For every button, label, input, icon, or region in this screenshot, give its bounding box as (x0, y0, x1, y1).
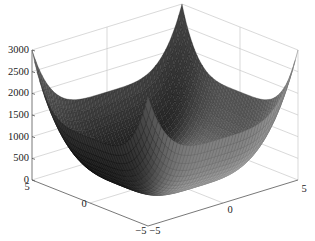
z-tick-500: 500 (13, 152, 29, 163)
surface-plot: 0 500 1000 1500 2000 2500 3000 5 0 −5 −5… (0, 0, 315, 241)
surface-mesh (32, 4, 298, 195)
z-tick-1000: 1000 (8, 131, 29, 142)
x-tick-neg5: −5 (149, 225, 160, 236)
z-tick-2000: 2000 (8, 87, 29, 98)
x-tick-0: 0 (227, 204, 232, 215)
z-tick-2500: 2500 (8, 66, 29, 77)
z-tick-1500: 1500 (8, 109, 29, 120)
z-tick-3000: 3000 (8, 44, 29, 55)
y-tick-neg5: −5 (135, 225, 146, 236)
y-tick-5: 5 (24, 181, 29, 192)
y-tick-0: 0 (81, 198, 86, 209)
x-tick-5: 5 (301, 183, 306, 194)
